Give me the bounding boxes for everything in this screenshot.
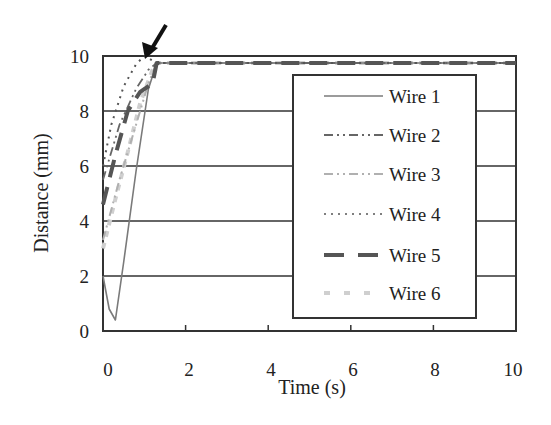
y-tick-label-8: 8 [80, 101, 90, 122]
legend-label-wire-5: Wire 5 [389, 245, 440, 266]
y-tick-labels: 0 2 4 6 8 10 [70, 46, 90, 342]
x-tick-label-10: 10 [504, 359, 523, 380]
line-chart: Wire 1 Wire 2 Wire 3 Wire 4 Wire 5 Wire … [0, 0, 551, 425]
x-axis-title: Time (s) [278, 376, 346, 399]
legend-label-wire-3: Wire 3 [389, 164, 440, 185]
x-tick-label-8: 8 [430, 359, 440, 380]
y-tick-label-4: 4 [80, 211, 90, 232]
y-axis-title: Distance (mm) [30, 133, 53, 252]
annotation-arrow [142, 25, 166, 59]
legend-label-wire-2: Wire 2 [389, 125, 440, 146]
legend: Wire 1 Wire 2 Wire 3 Wire 4 Wire 5 Wire … [293, 75, 476, 318]
legend-label-wire-4: Wire 4 [389, 204, 441, 225]
x-tick-label-6: 6 [348, 359, 358, 380]
y-tick-label-10: 10 [70, 46, 89, 67]
y-tick-label-2: 2 [80, 266, 90, 287]
y-tick-label-6: 6 [80, 156, 90, 177]
legend-label-wire-1: Wire 1 [389, 86, 440, 107]
legend-label-wire-6: Wire 6 [389, 283, 440, 304]
y-tick-label-0: 0 [80, 321, 90, 342]
x-tick-label-2: 2 [184, 359, 194, 380]
x-tick-label-4: 4 [266, 359, 276, 380]
legend-box [293, 75, 476, 318]
x-tick-label-0: 0 [103, 359, 113, 380]
